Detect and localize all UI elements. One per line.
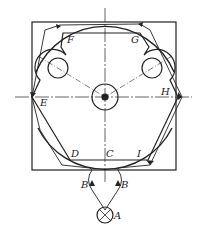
- radial-line-left: [38, 56, 105, 97]
- arrow-icon: [138, 22, 143, 27]
- label-C: C: [106, 148, 114, 159]
- label-E: E: [39, 97, 48, 108]
- label-B-right: B: [120, 179, 128, 190]
- arrow-icon: [89, 180, 95, 186]
- label-D: D: [70, 148, 79, 159]
- label-I: I: [136, 148, 142, 159]
- belt-path: [32, 24, 182, 210]
- label-B-left: B: [80, 179, 88, 190]
- label-A: A: [113, 210, 121, 221]
- diagram-canvas: F G E H D C I B B A: [0, 0, 199, 235]
- label-H: H: [160, 86, 170, 97]
- arrow-icon: [146, 160, 154, 165]
- label-F: F: [66, 34, 75, 45]
- label-G: G: [131, 34, 139, 45]
